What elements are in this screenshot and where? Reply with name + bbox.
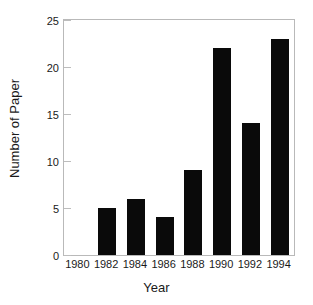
x-axis-tick-labels: 19801982198419861988199019921994 <box>63 259 295 275</box>
y-axis-tick-label: 25 <box>47 15 59 26</box>
bar-1994 <box>271 39 289 255</box>
bar-chart-figure: Number of Paper 0510152025 1980198219841… <box>0 0 313 305</box>
bar-1984 <box>127 199 145 255</box>
x-axis-tick-label: 1994 <box>266 259 290 270</box>
plot-area: 0510152025 <box>63 19 295 256</box>
x-axis-tick-label: 1980 <box>65 259 89 270</box>
y-axis-title-label: Number of Paper <box>8 79 21 178</box>
x-axis-title-label: Year <box>143 280 169 295</box>
bar-1986 <box>156 217 174 255</box>
y-axis-tick-label: 10 <box>47 156 59 167</box>
bar-1990 <box>213 48 231 255</box>
bars-layer <box>64 20 294 255</box>
bar-1982 <box>98 208 116 255</box>
x-axis-tick-label: 1982 <box>94 259 118 270</box>
x-axis-tick-label: 1990 <box>209 259 233 270</box>
x-axis-tick-label: 1986 <box>151 259 175 270</box>
y-axis-tick: 0 <box>64 255 71 256</box>
x-axis-title: Year <box>0 281 313 294</box>
y-axis-tick-label: 5 <box>53 203 59 214</box>
y-axis-title: Number of Paper <box>4 0 24 256</box>
bar-1988 <box>184 170 202 255</box>
x-axis-tick-label: 1988 <box>180 259 204 270</box>
y-axis-tick-label: 0 <box>53 250 59 261</box>
bar-1992 <box>242 123 260 255</box>
y-axis-tick-label: 15 <box>47 109 59 120</box>
y-axis-tick-mark <box>64 255 71 256</box>
y-axis-tick-label: 20 <box>47 62 59 73</box>
x-axis-tick-label: 1992 <box>238 259 262 270</box>
x-axis-tick-label: 1984 <box>123 259 147 270</box>
